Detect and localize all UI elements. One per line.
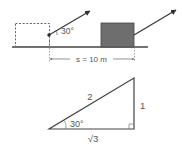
- initial-position-box: [16, 24, 50, 47]
- triangle-shape: [49, 78, 134, 129]
- distance-label: s = 10 m: [76, 55, 107, 64]
- angle-label-top: 30°: [61, 26, 74, 36]
- moved-block: [101, 23, 134, 47]
- triangle-angle-arc-icon: [65, 121, 67, 130]
- triangle-angle-label: 30°: [70, 119, 84, 129]
- hypotenuse-label: 2: [87, 91, 92, 102]
- physics-diagram: 30° s = 10 m 2 1 30° √3: [0, 0, 182, 149]
- angle-arc-icon: [56, 31, 57, 36]
- right-angle-marker-icon: [129, 124, 134, 129]
- opposite-side-label: 1: [140, 100, 145, 111]
- force-arrow-final: [134, 10, 176, 35]
- reference-triangle: 2 1 30° √3: [49, 78, 145, 144]
- adjacent-side-label: √3: [88, 133, 99, 144]
- work-force-diagram: 30° s = 10 m: [12, 10, 176, 64]
